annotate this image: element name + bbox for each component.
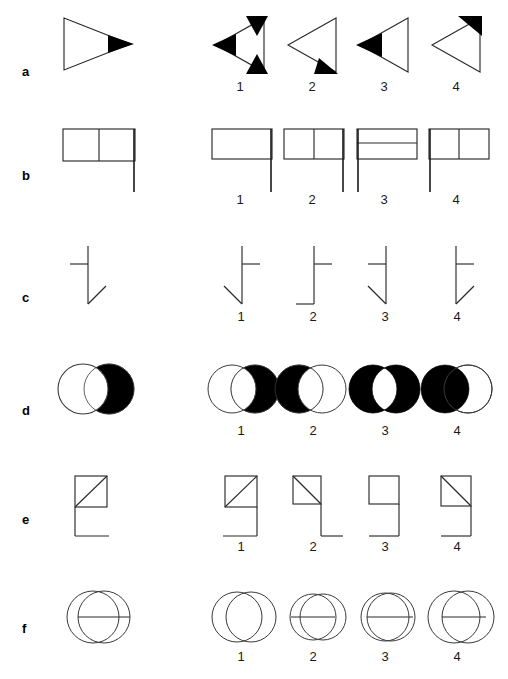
row-a-option-2-number: 2 bbox=[292, 80, 332, 93]
row-f-option-3[interactable] bbox=[355, 586, 427, 648]
row-b-option-2-number: 2 bbox=[292, 193, 332, 206]
row-f-option-1-number: 1 bbox=[221, 650, 261, 663]
row-c-option-1[interactable] bbox=[214, 242, 274, 312]
row-e-option-4[interactable] bbox=[429, 472, 491, 542]
row-a: a bbox=[0, 0, 508, 110]
row-e-option-1-number: 1 bbox=[221, 540, 261, 553]
row-d-option-1-number: 1 bbox=[221, 424, 261, 437]
row-d-model-figure bbox=[54, 358, 144, 420]
row-c-option-4[interactable] bbox=[430, 242, 490, 312]
row-e-model-figure bbox=[62, 472, 142, 542]
row-f-option-2[interactable] bbox=[283, 586, 355, 648]
row-a-model-figure bbox=[60, 14, 150, 74]
row-c-option-1-number: 1 bbox=[221, 310, 261, 323]
row-label-d: d bbox=[22, 404, 30, 417]
row-d-option-3-number: 3 bbox=[365, 424, 405, 437]
row-c-option-2[interactable] bbox=[286, 242, 346, 312]
row-a-option-3-number: 3 bbox=[364, 80, 404, 93]
row-label-f: f bbox=[22, 622, 26, 635]
row-a-option-4-number: 4 bbox=[436, 80, 476, 93]
row-c-option-3[interactable] bbox=[358, 242, 418, 312]
row-c-option-2-number: 2 bbox=[293, 310, 333, 323]
row-b-option-2[interactable] bbox=[281, 126, 351, 196]
row-c: c bbox=[0, 232, 508, 342]
row-f-option-4-number: 4 bbox=[437, 650, 477, 663]
row-label-c: c bbox=[22, 291, 29, 304]
row-d-option-1[interactable] bbox=[205, 358, 277, 420]
row-e-option-3[interactable] bbox=[357, 472, 419, 542]
row-e-option-2[interactable] bbox=[285, 472, 347, 542]
row-d: d bbox=[0, 352, 508, 462]
row-c-option-3-number: 3 bbox=[365, 310, 405, 323]
row-b-option-3-number: 3 bbox=[364, 193, 404, 206]
row-c-option-4-number: 4 bbox=[437, 310, 477, 323]
row-e-option-2-number: 2 bbox=[293, 540, 333, 553]
row-f-option-3-number: 3 bbox=[365, 650, 405, 663]
row-b-option-4[interactable] bbox=[425, 126, 495, 196]
row-a-option-2[interactable] bbox=[284, 14, 342, 76]
row-e: e bbox=[0, 462, 508, 572]
row-b-option-1-number: 1 bbox=[220, 193, 260, 206]
row-b-model-figure bbox=[60, 126, 150, 196]
row-d-option-3[interactable] bbox=[349, 358, 421, 420]
row-d-option-4-number: 4 bbox=[437, 424, 477, 437]
row-e-option-3-number: 3 bbox=[365, 540, 405, 553]
row-b-option-3[interactable] bbox=[353, 126, 423, 196]
row-d-option-2-number: 2 bbox=[293, 424, 333, 437]
row-a-option-3[interactable] bbox=[356, 14, 414, 76]
row-d-option-4[interactable] bbox=[421, 358, 493, 420]
row-label-a: a bbox=[22, 65, 29, 78]
row-f-option-1[interactable] bbox=[209, 586, 281, 648]
row-e-option-1[interactable] bbox=[213, 472, 275, 542]
row-f-model-figure bbox=[60, 586, 146, 648]
row-b-option-4-number: 4 bbox=[436, 193, 476, 206]
test-sheet: a bbox=[0, 0, 508, 679]
row-a-option-1-number: 1 bbox=[220, 80, 260, 93]
row-f-option-2-number: 2 bbox=[293, 650, 333, 663]
row-c-model-figure bbox=[62, 242, 132, 312]
row-a-option-1[interactable] bbox=[212, 14, 270, 76]
row-b-option-1[interactable] bbox=[209, 126, 279, 196]
row-label-e: e bbox=[22, 513, 29, 526]
row-d-option-2[interactable] bbox=[277, 358, 349, 420]
row-label-b: b bbox=[22, 169, 30, 182]
row-e-option-4-number: 4 bbox=[437, 540, 477, 553]
row-f-option-4[interactable] bbox=[424, 586, 504, 648]
row-b: b bbox=[0, 113, 508, 223]
row-a-option-4[interactable] bbox=[428, 14, 486, 76]
row-f: f bbox=[0, 582, 508, 679]
